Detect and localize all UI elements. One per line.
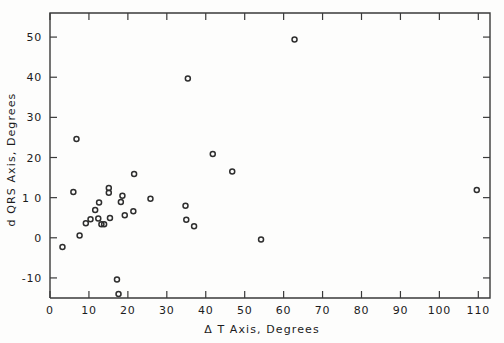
data-point — [88, 217, 93, 222]
data-point — [210, 151, 215, 156]
y-tick-label-20: 20 — [26, 152, 42, 165]
data-point — [118, 200, 123, 205]
data-point — [292, 37, 297, 42]
data-point-series — [60, 37, 479, 297]
data-point — [132, 171, 137, 176]
data-point — [183, 203, 188, 208]
data-point — [184, 217, 189, 222]
data-point — [83, 221, 88, 226]
x-tick-label-110: 110 — [467, 304, 490, 317]
data-point — [114, 277, 119, 282]
x-tick-label-10: 10 — [81, 304, 97, 317]
x-tick-label-30: 30 — [159, 304, 175, 317]
y-tick-label-0: 0 — [34, 232, 42, 245]
y-tick-label-10: 1 0 — [22, 192, 42, 205]
x-axis-ticks — [50, 13, 478, 298]
y-axis-title: d QRS Axis, Degrees — [5, 93, 18, 227]
data-point — [120, 193, 125, 198]
data-point — [60, 245, 65, 250]
data-point — [77, 233, 82, 238]
data-point — [93, 208, 98, 213]
data-point — [131, 209, 136, 214]
x-tick-label-0: 0 — [46, 304, 54, 317]
plot-frame — [50, 13, 490, 298]
data-point — [97, 200, 102, 205]
plot-canvas: 0102030405060708090100110 -1001 02030405… — [0, 0, 504, 343]
data-point — [185, 76, 190, 81]
x-tick-label-20: 20 — [120, 304, 136, 317]
x-tick-label-40: 40 — [198, 304, 214, 317]
x-axis-title: Δ T Axis, Degrees — [204, 323, 320, 336]
scatter-plot-figure: 0102030405060708090100110 -1001 02030405… — [0, 0, 504, 343]
y-axis-tick-labels: -1001 020304050 — [22, 31, 42, 285]
y-tick-label--10: -10 — [22, 272, 42, 285]
x-tick-label-100: 100 — [428, 304, 451, 317]
data-point — [116, 291, 121, 296]
data-point — [474, 188, 479, 193]
data-point — [74, 137, 79, 142]
x-tick-label-80: 80 — [354, 304, 370, 317]
x-tick-label-60: 60 — [276, 304, 292, 317]
x-tick-label-90: 90 — [393, 304, 409, 317]
data-point — [148, 196, 153, 201]
data-point — [230, 169, 235, 174]
x-tick-label-50: 50 — [237, 304, 253, 317]
y-tick-label-30: 30 — [26, 111, 42, 124]
y-tick-label-50: 50 — [26, 31, 42, 44]
y-tick-label-40: 40 — [26, 71, 42, 84]
data-point — [192, 224, 197, 229]
data-point — [71, 190, 76, 195]
data-point — [107, 216, 112, 221]
y-axis-title-text: d QRS Axis, Degrees — [5, 93, 18, 227]
data-point — [259, 237, 264, 242]
x-axis-tick-labels: 0102030405060708090100110 — [46, 304, 490, 317]
x-axis-title-text: Δ T Axis, Degrees — [204, 323, 320, 336]
data-point — [96, 216, 101, 221]
y-axis-ticks — [50, 37, 490, 278]
data-point — [106, 190, 111, 195]
x-tick-label-70: 70 — [315, 304, 331, 317]
data-point — [122, 213, 127, 218]
